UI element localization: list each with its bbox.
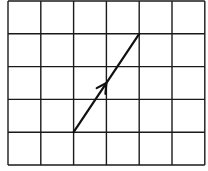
grid-diagram: [0, 0, 208, 171]
grid-with-vector: [0, 0, 208, 171]
